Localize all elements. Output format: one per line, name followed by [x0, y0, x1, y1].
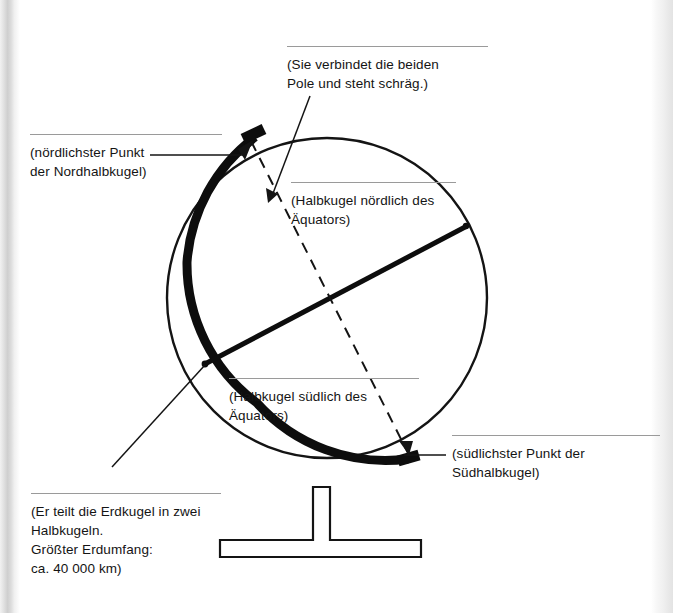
label-southern-hemisphere-line-1: (Halbkugel südlich des [229, 389, 367, 404]
north-pole-point [243, 129, 264, 139]
rule-northern-hemisphere [291, 182, 456, 183]
label-southern-hemisphere: (Halbkugel südlich des Äquators) [229, 387, 367, 425]
rule-equator [31, 493, 221, 494]
globe-stand [220, 487, 421, 557]
label-axis-line-1: (Sie verbindet die beiden [287, 57, 439, 72]
label-south-pole: (südlichster Punkt der Südhalbkugel) [452, 444, 585, 482]
label-equator-line-4: ca. 40 000 km) [31, 561, 122, 576]
label-north-pole-line-1: (nördlichster Punkt [30, 145, 144, 160]
label-north-pole: (nördlichster Punkt der Nordhalbkugel) [30, 143, 147, 181]
rule-north-pole [30, 134, 222, 135]
label-equator-line-3: Größter Erdumfang: [31, 542, 153, 557]
label-northern-hemisphere-line-1: (Halbkugel nördlich des [291, 193, 434, 208]
label-south-pole-line-2: Südhalbkugel) [452, 465, 540, 480]
label-north-pole-line-2: der Nordhalbkugel) [30, 164, 147, 179]
south-pole-point [398, 455, 419, 461]
leader-arrowhead-axis [266, 188, 278, 203]
label-axis: (Sie verbindet die beiden Pole und steht… [287, 55, 439, 93]
equator-endpoint-dot [202, 361, 209, 368]
label-northern-hemisphere-line-2: Äquators) [291, 212, 350, 227]
label-southern-hemisphere-line-2: Äquators) [229, 408, 288, 423]
scanned-page: (nördlichster Punkt der Nordhalbkugel) (… [0, 0, 673, 613]
leader-line-equator [112, 365, 205, 467]
rule-southern-hemisphere [229, 378, 419, 379]
label-axis-line-2: Pole und steht schräg.) [287, 76, 428, 91]
rule-axis [287, 46, 488, 47]
rule-south-pole [452, 435, 660, 436]
label-equator-line-2: Halbkugeln. [31, 523, 103, 538]
equator-endpoint-dot [463, 223, 469, 229]
label-northern-hemisphere: (Halbkugel nördlich des Äquators) [291, 191, 434, 229]
label-equator: (Er teilt die Erdkugel in zwei Halbkugel… [31, 502, 201, 578]
label-equator-line-1: (Er teilt die Erdkugel in zwei [31, 504, 201, 519]
equator-line [203, 226, 467, 365]
label-south-pole-line-1: (südlichster Punkt der [452, 446, 585, 461]
